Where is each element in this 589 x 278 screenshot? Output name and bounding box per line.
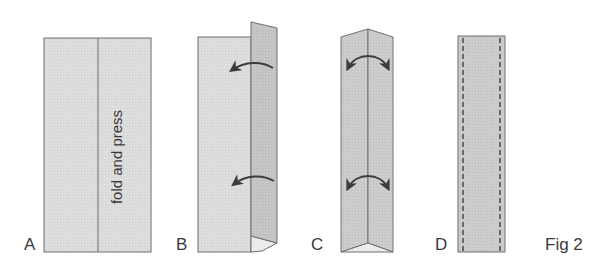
step-label-a: A	[24, 235, 36, 254]
strip-b-left	[198, 37, 251, 252]
fold-and-press-annotation: fold and press	[108, 110, 125, 204]
figure-caption: Fig 2	[545, 235, 583, 254]
step-c: C	[311, 29, 393, 254]
strip-b-flap	[251, 22, 277, 243]
step-a: fold and press A	[24, 38, 151, 254]
fold-diagram: fold and press A B C D Fig 2	[0, 0, 589, 278]
strip-d	[458, 36, 505, 252]
step-label-b: B	[176, 235, 187, 254]
step-label-c: C	[311, 235, 323, 254]
step-b: B	[176, 22, 277, 254]
strip-c-left	[341, 29, 368, 252]
strip-c-right	[368, 29, 393, 252]
step-label-d: D	[435, 235, 447, 254]
step-d: D	[435, 36, 505, 254]
